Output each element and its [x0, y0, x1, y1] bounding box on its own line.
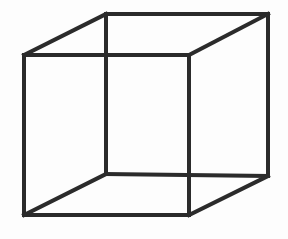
cube-edge-back-bottom [106, 174, 268, 176]
necker-cube-figure [0, 0, 288, 239]
cube-drawing [0, 0, 288, 239]
figure-background [0, 0, 288, 239]
